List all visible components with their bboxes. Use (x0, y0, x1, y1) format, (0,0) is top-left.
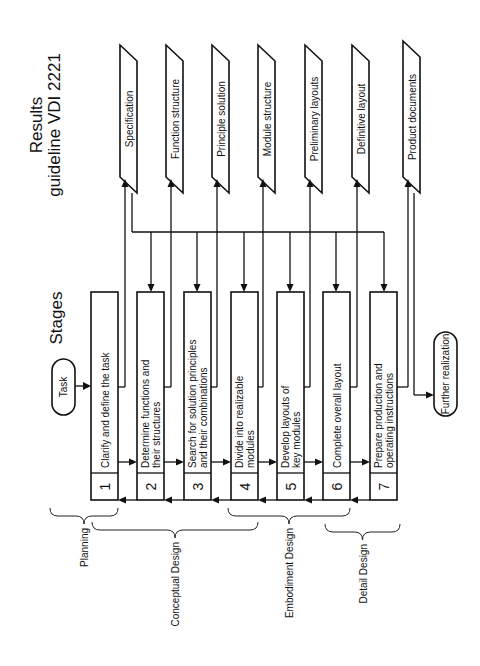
stage-box: 2Determine functions andtheir structures (137, 292, 164, 500)
results-header-line1: Results (27, 97, 46, 154)
stages-header: Stages (47, 292, 66, 345)
arrowhead-icon (129, 459, 137, 466)
stage-label-line2: their structures (151, 402, 162, 468)
stage-label-line2: operating instructions (384, 373, 395, 468)
arrowhead-icon (164, 497, 172, 504)
phase-brace: Conceptual Design (92, 522, 258, 627)
stage-number: 7 (376, 482, 392, 490)
stage-box: 6Complete overall layout (323, 292, 350, 500)
results-column: SpecificationFunction structurePrinciple… (120, 41, 420, 193)
arrowhead-icon (315, 459, 323, 466)
arrowhead-icon (223, 459, 231, 466)
stage-number: 6 (329, 482, 345, 490)
arrowhead-icon (241, 284, 248, 292)
arrowhead-icon (194, 284, 201, 292)
result-label: Product documents (407, 74, 418, 160)
stage-box: 5Develop layouts ofkey modules (277, 292, 304, 500)
result-label: Definitive layout (356, 83, 367, 154)
result-document: Function structure (166, 45, 183, 193)
phase-braces: PlanningConceptual DesignEmbodiment Desi… (50, 508, 400, 627)
further-realization-node: Further realization (434, 332, 457, 416)
results-header-line2: guideline VDI 2221 (45, 53, 64, 197)
stage-label-line2: and their combinations (198, 367, 209, 468)
stage-number: 5 (283, 482, 299, 490)
arrowhead-icon (304, 497, 312, 504)
result-label: Specification (124, 91, 135, 148)
further-realization-label: Further realization (440, 334, 451, 415)
stage-number: 2 (143, 482, 159, 490)
vdi-2221-process-diagram: Stages Results guideline VDI 2221 Task 1… (0, 0, 480, 666)
stage-number: 1 (97, 482, 113, 490)
stage-label-line1: Develop layouts of (280, 386, 291, 468)
result-document: Principle solution (212, 45, 229, 193)
arrowhead-icon (148, 284, 155, 292)
stage-number: 3 (190, 482, 206, 490)
stage-box: 4Divide into realizablemodules (231, 292, 258, 500)
phase-label: Conceptual Design (170, 542, 181, 627)
stage-box: 3Search for solution principlesand their… (184, 292, 211, 500)
result-document: Specification (120, 45, 137, 193)
arrowhead-icon (350, 497, 358, 504)
stage-label-line1: Prepare production and (373, 363, 384, 468)
phase-brace: Embodiment Design (228, 508, 350, 618)
task-label: Task (58, 376, 69, 398)
task-start-node: Task (52, 359, 75, 415)
arrowhead-icon (211, 497, 219, 504)
stage-label-line2: modules (245, 430, 256, 468)
stage-label-line1: Divide into realizable (234, 375, 245, 468)
result-label: Preliminary layouts (309, 77, 320, 161)
stage-label-line1: Determine functions and (140, 360, 151, 468)
arrowhead-icon (381, 284, 388, 292)
stage-number: 4 (237, 482, 253, 490)
arrowhead-icon (362, 459, 370, 466)
arrowhead-icon (426, 392, 434, 399)
stage-label-line2: key modules (291, 412, 302, 468)
phase-label: Embodiment Design (284, 528, 295, 618)
phase-label: Detail Design (358, 544, 369, 603)
result-document: Product documents (403, 41, 420, 193)
arrowhead-icon (333, 284, 340, 292)
stages-column: 1Clarify and define the task2Determine f… (91, 292, 397, 500)
result-document: Module structure (258, 45, 275, 193)
result-document: Definitive layout (352, 45, 369, 193)
stage-label: Complete overall layout (332, 363, 343, 468)
stage-label: Clarify and define the task (100, 351, 111, 468)
arrowhead-icon (83, 382, 91, 390)
phase-brace: Planning (50, 508, 118, 567)
phase-label: Planning (79, 528, 90, 567)
result-label: Principle solution (216, 81, 227, 157)
stage-box: 1Clarify and define the task (91, 292, 118, 500)
arrowhead-icon (118, 497, 126, 504)
result-document: Preliminary layouts (305, 45, 322, 193)
result-label: Module structure (262, 81, 273, 156)
arrowhead-icon (287, 284, 294, 292)
stage-box: 7Prepare production andoperating instruc… (370, 292, 397, 500)
phase-brace: Detail Design (325, 524, 400, 603)
stage-label-line1: Search for solution principles (187, 340, 198, 468)
arrowhead-icon (258, 497, 266, 504)
result-label: Function structure (170, 79, 181, 159)
arrowhead-icon (269, 459, 277, 466)
arrowhead-icon (176, 459, 184, 466)
